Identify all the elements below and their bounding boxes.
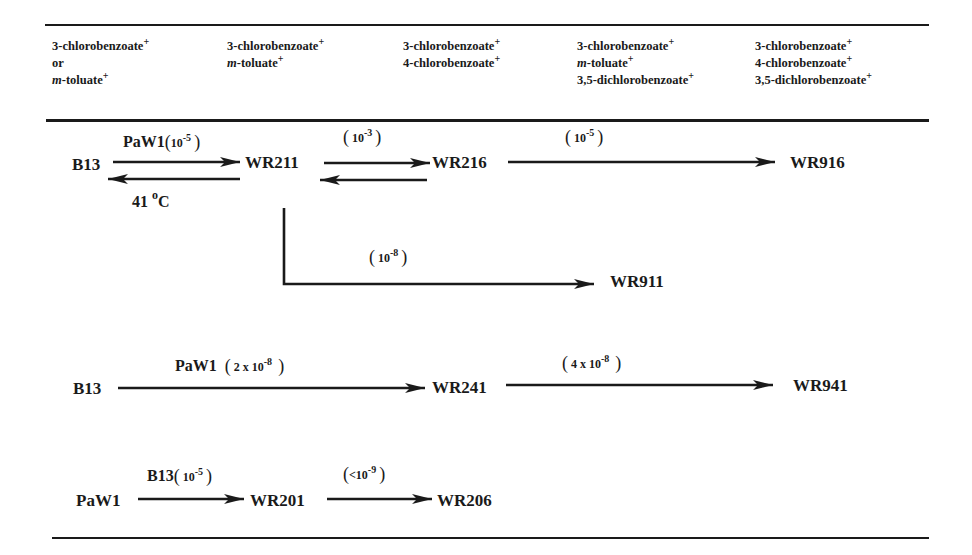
freq-exponent: -5	[586, 127, 594, 138]
close-paren: )	[206, 466, 212, 486]
node-wr241: WR241	[432, 378, 487, 398]
edge-label-b13-wr211: PaW1(10-5 )	[123, 132, 200, 153]
close-paren: )	[379, 464, 385, 484]
freq-wr216-wr916: ( 10-5 )	[565, 127, 603, 148]
freq-exponent: -8	[390, 247, 398, 258]
freq-base: 10	[378, 251, 390, 265]
node-wr206: WR206	[437, 491, 492, 511]
arrow-wr211-to-wr911	[284, 208, 594, 284]
freq-exponent: -9	[368, 464, 376, 475]
open-paren: (	[565, 127, 571, 147]
close-paren: )	[278, 356, 284, 376]
edge-label-paw1-wr201: B13( 10-5 )	[147, 466, 212, 487]
node-wr211: WR211	[245, 153, 299, 173]
freq-wr241-wr941: ( 4 x 10-8 )	[562, 353, 621, 374]
node-b13-2: B13	[73, 379, 101, 399]
freq-base: 10	[352, 131, 364, 145]
close-paren: )	[615, 353, 621, 373]
freq-wr201-wr206: (<10-9 )	[343, 464, 385, 485]
temperature-label: 41 oC	[132, 193, 170, 211]
node-wr216: WR216	[432, 153, 487, 173]
close-paren: )	[375, 127, 381, 147]
close-paren: )	[194, 132, 200, 152]
node-wr201: WR201	[250, 491, 305, 511]
freq-base: 10	[171, 136, 183, 150]
freq-wr211-wr216: ( 10-3 )	[343, 127, 381, 148]
freq-exponent: -5	[195, 466, 203, 477]
node-b13: B13	[72, 155, 100, 175]
open-paren: (	[225, 356, 231, 376]
close-paren: )	[597, 127, 603, 147]
freq-base: 10	[574, 131, 586, 145]
freq-exponent: -8	[601, 353, 609, 364]
freq-wr211-wr911: ( 10-8 )	[369, 247, 407, 268]
node-wr916: WR916	[790, 153, 845, 173]
donor-label: B13	[147, 467, 174, 484]
freq-exponent: -8	[264, 356, 272, 367]
close-paren: )	[401, 247, 407, 267]
freq-exponent: -5	[183, 132, 191, 143]
donor-label: PaW1	[123, 133, 165, 150]
edge-label-b13-wr241: PaW1 ( 2 x 10-8 )	[175, 356, 284, 377]
arrow-layer	[0, 0, 972, 555]
node-wr911: WR911	[610, 272, 664, 292]
freq-base: <10	[349, 468, 368, 482]
open-paren: (	[369, 247, 375, 267]
open-paren: (	[174, 466, 180, 486]
freq-base: 4 x 10	[571, 357, 601, 371]
open-paren: (	[562, 353, 568, 373]
freq-base: 2 x 10	[234, 360, 264, 374]
temp-unit: C	[158, 193, 170, 210]
freq-base: 10	[183, 470, 195, 484]
open-paren: (	[343, 127, 349, 147]
node-paw1: PaW1	[76, 491, 120, 511]
freq-exponent: -3	[364, 127, 372, 138]
node-wr941: WR941	[793, 376, 848, 396]
temp-value: 41	[132, 193, 148, 210]
donor-label: PaW1	[175, 357, 217, 374]
